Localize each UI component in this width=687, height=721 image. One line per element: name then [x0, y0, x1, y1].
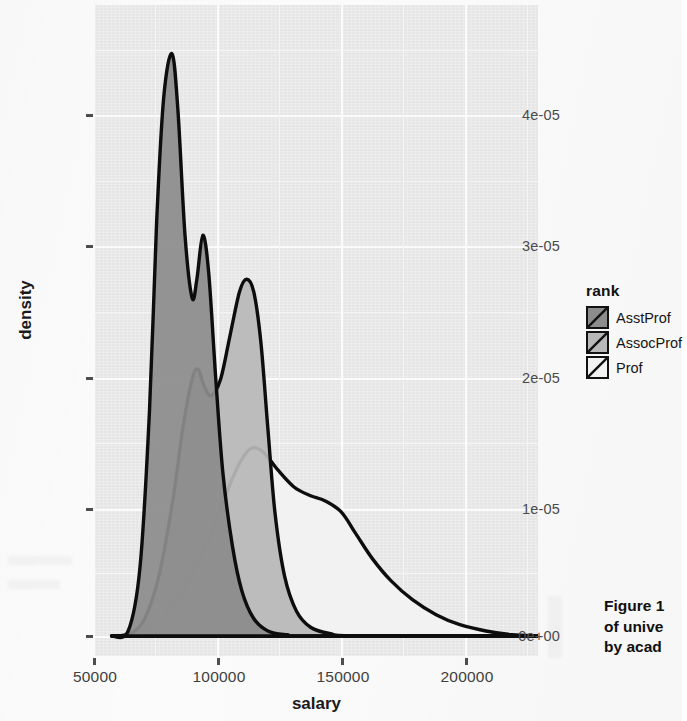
legend-label-assocprof: AssocProf: [616, 335, 682, 351]
x-tick-mark: [465, 658, 468, 665]
y-tick-label-4e-05: 4e-05: [482, 107, 560, 123]
figure-caption: Figure 1 of unive by acad: [604, 596, 687, 658]
y-axis-label: density: [16, 240, 36, 380]
legend-item-asstprof[interactable]: AsstProf: [578, 305, 682, 330]
x-tick-mark: [93, 658, 96, 665]
legend: rank AsstProf AssocProf Prof: [578, 282, 682, 380]
legend-item-prof[interactable]: Prof: [578, 355, 682, 380]
legend-label-prof: Prof: [616, 360, 643, 376]
plot-panel: [95, 5, 538, 656]
caption-line-2: of unive: [604, 617, 687, 638]
x-axis-label: salary: [95, 694, 538, 714]
x-tick-mark: [217, 658, 220, 665]
x-tick-label-100000: 100000: [159, 668, 279, 686]
y-tick-mark: [86, 245, 93, 248]
x-tick-label-200000: 200000: [407, 668, 527, 686]
y-tick-label-0e+00: 0e+00: [482, 628, 560, 644]
legend-label-asstprof: AsstProf: [616, 310, 671, 326]
x-tick-label-150000: 150000: [283, 668, 403, 686]
legend-swatch-assocprof: [586, 331, 609, 354]
y-tick-label-1e-05: 1e-05: [482, 501, 560, 517]
y-tick-mark: [86, 635, 93, 638]
density-plot-figure: 4e-05 3e-05 2e-05 1e-05 0e+00 density 50…: [0, 0, 560, 721]
legend-swatch-prof: [586, 356, 609, 379]
legend-title: rank: [586, 282, 682, 300]
caption-line-3: by acad: [604, 637, 687, 658]
y-tick-mark: [86, 377, 93, 380]
density-curves: [95, 5, 538, 656]
caption-line-1: Figure 1: [604, 596, 687, 617]
x-tick-mark: [341, 658, 344, 665]
legend-item-assocprof[interactable]: AssocProf: [578, 330, 682, 355]
y-tick-label-2e-05: 2e-05: [482, 370, 560, 386]
x-tick-label-50000: 50000: [35, 668, 155, 686]
legend-swatch-asstprof: [586, 306, 609, 329]
y-tick-label-3e-05: 3e-05: [482, 238, 560, 254]
y-tick-mark: [86, 508, 93, 511]
y-tick-mark: [86, 114, 93, 117]
